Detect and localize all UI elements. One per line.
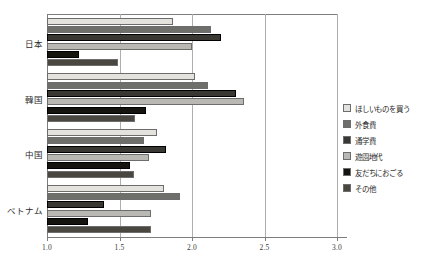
legend-item: 友だちにおごる — [343, 164, 435, 180]
legend-swatch-icon — [343, 184, 351, 192]
bar — [47, 73, 195, 80]
bar — [47, 43, 192, 50]
legend-item: その他 — [343, 180, 435, 196]
legend-swatch-icon — [343, 152, 351, 160]
bar — [47, 82, 208, 89]
tick-mark-2.0 — [192, 237, 193, 241]
x-tick-label: 2.5 — [260, 243, 270, 252]
bar — [47, 98, 244, 105]
bar — [47, 51, 79, 58]
bar — [47, 26, 211, 33]
tick-mark-1.5 — [120, 237, 121, 241]
bar — [47, 201, 104, 208]
x-axis-line — [47, 237, 347, 238]
bar — [47, 59, 118, 66]
legend-item: 通学費 — [343, 132, 435, 148]
x-tick-label: 2.0 — [187, 243, 197, 252]
legend-swatch-icon — [343, 168, 351, 176]
x-tick-label: 3.0 — [332, 243, 342, 252]
legend: ほしいものを買う外食費通学費遊園地代友だちにおごるその他 — [343, 100, 435, 196]
bar — [47, 146, 166, 153]
legend-label: 友だちにおごる — [355, 167, 403, 178]
bar — [47, 226, 151, 233]
bar — [47, 107, 146, 114]
bar — [47, 210, 151, 217]
category-label-0: 日本 — [25, 37, 43, 49]
bar-group — [47, 14, 337, 70]
bar-group — [47, 70, 337, 126]
bar — [47, 34, 221, 41]
x-tick-label: 1.5 — [115, 243, 125, 252]
legend-item: 外食費 — [343, 116, 435, 132]
legend-label: 通学費 — [355, 135, 375, 146]
bar — [47, 162, 130, 169]
x-tick-label: 1.0 — [42, 243, 52, 252]
bar-chart: 1.01.52.02.53.0 ほしいものを買う外食費通学費遊園地代友だちにおご… — [0, 0, 436, 259]
legend-label: 遊園地代 — [355, 151, 382, 162]
bar — [47, 18, 173, 25]
category-label-2: 中国 — [25, 148, 43, 160]
legend-item: ほしいものを買う — [343, 100, 435, 116]
bar-group — [47, 181, 337, 237]
bar — [47, 154, 149, 161]
bar — [47, 115, 135, 122]
bar — [47, 171, 134, 178]
tick-mark-2.5 — [265, 237, 266, 241]
category-label-3: ベトナム — [7, 204, 43, 216]
bar — [47, 129, 157, 136]
bar-group — [47, 126, 337, 182]
tick-mark-3.0 — [337, 237, 338, 241]
legend-label: 外食費 — [355, 119, 375, 130]
legend-swatch-icon — [343, 104, 351, 112]
bar — [47, 90, 236, 97]
gridline-3.0 — [337, 14, 338, 237]
legend-swatch-icon — [343, 136, 351, 144]
tick-mark-1.0 — [47, 237, 48, 241]
legend-swatch-icon — [343, 120, 351, 128]
bar — [47, 185, 164, 192]
legend-label: ほしいものを買う — [355, 103, 409, 114]
category-label-1: 韓国 — [25, 93, 43, 105]
legend-label: その他 — [355, 183, 375, 194]
bar — [47, 137, 144, 144]
bar — [47, 218, 88, 225]
bar — [47, 193, 180, 200]
legend-item: 遊園地代 — [343, 148, 435, 164]
